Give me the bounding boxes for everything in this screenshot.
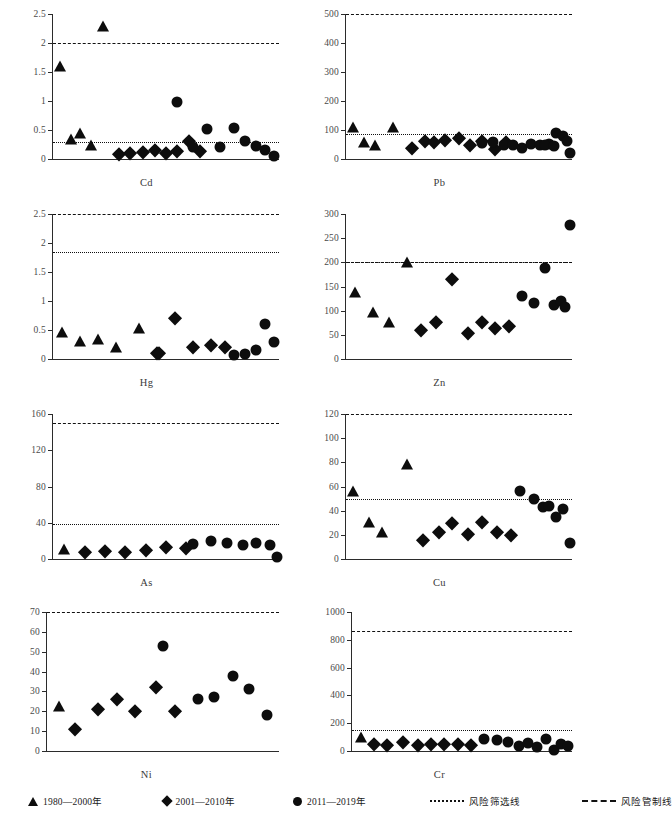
y-tick-label: 120	[324, 409, 339, 419]
plot-area-as: 04080120160	[52, 414, 279, 560]
data-point-diamond	[137, 145, 150, 158]
data-point-circle	[557, 504, 568, 515]
y-tick	[48, 243, 53, 244]
y-tick-label: 0.5	[34, 325, 46, 335]
data-point-circle	[215, 142, 226, 153]
risk-screening-line	[53, 524, 279, 525]
y-tick-label: 2.5	[34, 209, 46, 219]
y-tick	[48, 414, 53, 415]
y-tick	[48, 301, 53, 302]
y-tick	[48, 14, 53, 15]
data-point-circle	[476, 138, 487, 149]
y-tick-label: 100	[324, 433, 339, 443]
y-tick	[341, 511, 346, 512]
y-tick	[42, 751, 47, 752]
y-tick-label: 120	[31, 445, 46, 455]
panel-axis-title: Cu	[293, 577, 586, 588]
data-point-circle	[260, 319, 271, 330]
panel-hg: 00.511.522.5Hg	[0, 200, 293, 396]
plot-area-ni: 010203040506070	[46, 612, 279, 752]
y-tick	[48, 72, 53, 73]
data-point-diamond	[139, 543, 152, 556]
data-point-circle	[192, 694, 203, 705]
y-tick	[341, 287, 346, 288]
y-tick-label: 200	[324, 96, 339, 106]
data-point-circle	[548, 141, 559, 152]
y-tick	[341, 43, 346, 44]
data-point-circle	[564, 220, 575, 231]
y-tick	[48, 559, 53, 560]
y-tick-label: 50	[30, 647, 40, 657]
y-tick-label: 100	[324, 125, 339, 135]
legend-item-label: 2011—2019年	[307, 794, 366, 808]
legend-item-2[interactable]: 2001—2010年	[163, 794, 236, 808]
data-point-diamond	[110, 693, 123, 706]
panel-axis-title: Cd	[0, 177, 293, 188]
y-tick-label: 0	[334, 354, 339, 364]
data-point-diamond	[414, 324, 427, 337]
risk-control-line	[53, 423, 279, 424]
y-tick-label: 70	[30, 607, 40, 617]
data-point-circle	[479, 733, 490, 744]
data-point-diamond	[405, 141, 418, 154]
panel-axis-title: Zn	[293, 377, 586, 388]
data-point-diamond	[112, 148, 125, 161]
data-point-circle	[271, 552, 282, 563]
legend-item-3[interactable]: 2011—2019年	[293, 794, 366, 808]
y-tick-label: 200	[324, 257, 339, 267]
data-point-diamond	[171, 145, 184, 158]
data-point-circle	[539, 263, 550, 274]
y-tick	[42, 652, 47, 653]
y-tick	[347, 723, 352, 724]
risk-screening-line	[53, 252, 279, 253]
legend-item-1[interactable]: 1980—2000年	[28, 794, 103, 808]
data-point-diamond	[149, 681, 162, 694]
legend-item-label: 风险筛选线	[469, 794, 520, 808]
data-point-diamond	[168, 705, 181, 718]
data-point-circle	[240, 136, 251, 147]
data-point-triangle	[74, 335, 86, 346]
y-tick	[48, 330, 53, 331]
y-tick	[341, 487, 346, 488]
data-point-diamond	[502, 319, 515, 332]
data-point-circle	[243, 684, 254, 695]
y-tick	[48, 130, 53, 131]
y-tick-label: 2	[41, 38, 46, 48]
data-point-circle	[201, 123, 212, 134]
y-tick-label: 60	[329, 482, 339, 492]
y-tick	[48, 487, 53, 488]
data-point-circle	[262, 710, 273, 721]
data-point-circle	[528, 298, 539, 309]
data-point-circle	[188, 141, 199, 152]
data-point-diamond	[461, 527, 474, 540]
panel-as: 04080120160As	[0, 400, 293, 596]
data-point-circle	[492, 735, 503, 746]
data-point-circle	[172, 97, 183, 108]
y-tick	[48, 450, 53, 451]
y-tick	[341, 214, 346, 215]
data-point-diamond	[464, 738, 477, 751]
plot-area-pb: 0100200300400500	[345, 14, 572, 160]
legend-item-5[interactable]: 风险管制线	[582, 794, 672, 808]
y-tick-label: 2.5	[34, 9, 46, 19]
y-tick-label: 40	[36, 518, 46, 528]
legend-item-4[interactable]: 风险筛选线	[430, 794, 520, 808]
y-tick	[341, 438, 346, 439]
y-tick-label: 40	[329, 506, 339, 516]
y-tick-label: 0	[41, 354, 46, 364]
risk-control-line	[346, 414, 572, 415]
y-tick-label: 1.5	[34, 267, 46, 277]
data-point-triangle	[58, 543, 70, 554]
y-tick-label: 160	[31, 409, 46, 419]
data-point-triangle	[367, 307, 379, 318]
y-tick	[341, 335, 346, 336]
y-tick	[42, 711, 47, 712]
data-point-circle	[188, 538, 199, 549]
data-point-circle	[564, 148, 575, 159]
data-point-diamond	[98, 544, 111, 557]
data-point-diamond	[123, 146, 136, 159]
data-point-circle	[503, 737, 514, 748]
plot-area-cr: 02004006008001000	[351, 612, 572, 752]
y-tick	[42, 691, 47, 692]
